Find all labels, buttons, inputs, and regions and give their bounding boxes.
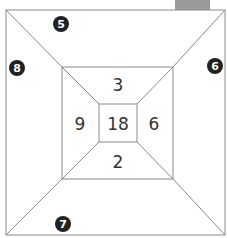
number-left: 9 <box>75 116 86 133</box>
corner-decoration <box>175 0 210 10</box>
number-right: 6 <box>149 116 160 133</box>
badge-left: 8 <box>9 60 25 76</box>
number-top: 3 <box>113 77 124 94</box>
badge-top: 5 <box>53 16 69 32</box>
number-bottom: 2 <box>113 154 124 171</box>
badge-bottom: 7 <box>55 216 71 232</box>
number-center: 18 <box>107 116 129 133</box>
badge-right: 6 <box>207 58 223 74</box>
